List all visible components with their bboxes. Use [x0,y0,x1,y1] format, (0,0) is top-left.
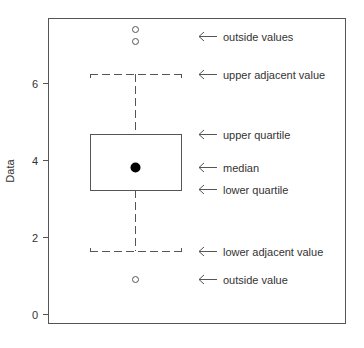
y-tick-label-4: 4 [32,155,38,167]
box-plot-chart: 6 4 2 0 Data outside values upper adjace… [0,0,364,348]
plot-frame [49,19,346,324]
arrow-icon [199,163,217,172]
arrow-icon [199,247,217,256]
annotation-lower-quartile: lower quartile [223,184,288,196]
annotation-arrows [199,32,217,284]
outlier-upper-1 [133,27,139,33]
annotation-outside-value: outside value [223,274,288,286]
outlier-lower-1 [133,277,139,283]
annotation-median: median [223,162,259,174]
y-axis [43,84,48,315]
annotation-upper-quartile: upper quartile [223,129,290,141]
annotation-upper-adjacent: upper adjacent value [223,69,325,81]
arrow-icon [199,130,217,139]
y-tick-label-0: 0 [32,309,38,321]
outlier-upper-2 [133,39,139,45]
interquartile-box [91,135,182,191]
arrow-icon [199,275,217,284]
annotation-outside-values: outside values [223,31,294,43]
arrow-icon [199,70,217,79]
arrow-icon [199,32,217,41]
y-tick-label-2: 2 [32,232,38,244]
y-axis-label: Data [4,159,16,183]
y-tick-label-6: 6 [32,78,38,90]
median-marker [131,163,141,173]
arrow-icon [199,185,217,194]
annotation-lower-adjacent: lower adjacent value [223,246,323,258]
